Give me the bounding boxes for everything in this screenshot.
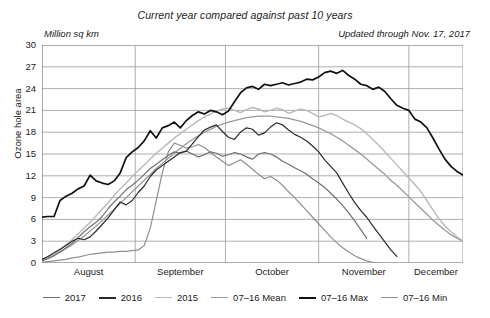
legend-swatch-icon bbox=[381, 297, 398, 298]
y-tick-label: 27 bbox=[10, 62, 36, 72]
legend-swatch-icon bbox=[299, 297, 316, 299]
x-tick-label-october: October bbox=[232, 266, 312, 277]
legend-label: 07–16 Max bbox=[321, 292, 368, 303]
series-line-mean bbox=[42, 116, 463, 259]
legend-swatch-icon bbox=[99, 297, 116, 299]
series-line-2017 bbox=[42, 151, 367, 261]
y-tick-label: 9 bbox=[10, 193, 36, 203]
y-tick-label: 6 bbox=[10, 214, 36, 224]
y-tick-label: 24 bbox=[10, 84, 36, 94]
x-tick-label-november: November bbox=[324, 266, 404, 277]
legend-item-07-16-min[interactable]: 07–16 Min bbox=[381, 292, 447, 303]
legend-item-07-16-mean[interactable]: 07–16 Mean bbox=[211, 292, 286, 303]
legend-label: 2017 bbox=[65, 292, 86, 303]
updated-through-label: Updated through Nov. 17, 2017 bbox=[338, 28, 470, 39]
x-tick-label-september: September bbox=[140, 266, 220, 277]
legend-item-2015[interactable]: 2015 bbox=[155, 292, 198, 303]
y-tick-label: 30 bbox=[10, 40, 36, 50]
legend-item-2016[interactable]: 2016 bbox=[99, 292, 142, 303]
legend-item-07-16-max[interactable]: 07–16 Max bbox=[299, 292, 368, 303]
y-tick-label: 18 bbox=[10, 127, 36, 137]
legend-item-2017[interactable]: 2017 bbox=[43, 292, 86, 303]
y-tick-label: 21 bbox=[10, 105, 36, 115]
legend-label: 07–16 Mean bbox=[233, 292, 286, 303]
y-tick-label: 0 bbox=[10, 258, 36, 268]
legend-label: 07–16 Min bbox=[403, 292, 447, 303]
legend-swatch-icon bbox=[155, 297, 172, 298]
y-axis-ticks: 036912151821242730 bbox=[8, 0, 36, 318]
chart-root: Current year compared against past 10 ye… bbox=[0, 0, 490, 318]
legend-swatch-icon bbox=[43, 297, 60, 298]
series-line-max bbox=[42, 70, 463, 217]
series-line-2016 bbox=[42, 123, 397, 260]
legend-label: 2016 bbox=[121, 292, 142, 303]
x-tick-label-august: August bbox=[49, 266, 129, 277]
y-tick-label: 12 bbox=[10, 171, 36, 181]
y-tick-label: 3 bbox=[10, 236, 36, 246]
x-tick-label-december: December bbox=[396, 266, 476, 277]
chart-title: Current year compared against past 10 ye… bbox=[0, 9, 490, 21]
y-tick-label: 15 bbox=[10, 149, 36, 159]
unit-label: Million sq km bbox=[44, 28, 99, 39]
legend-swatch-icon bbox=[211, 297, 228, 298]
series-line-min bbox=[42, 143, 379, 263]
chart-legend: 20172016201507–16 Mean07–16 Max07–16 Min bbox=[0, 292, 490, 303]
plot-area bbox=[42, 45, 463, 263]
legend-label: 2015 bbox=[177, 292, 198, 303]
